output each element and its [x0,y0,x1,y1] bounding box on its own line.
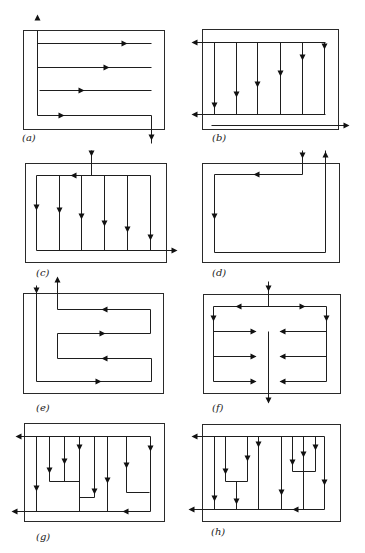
arrow-right-icon [300,304,306,310]
arrow-left-icon [192,434,198,440]
panel-frame [203,164,340,263]
arrow-down-icon [300,55,306,61]
arrow-down-icon [256,442,262,448]
arrow-down-icon [212,496,218,502]
arrow-down-icon [266,398,272,404]
panel-h: (h) [189,425,341,538]
arrow-left-icon [280,379,286,385]
panel-e: (e) [24,277,164,414]
flow-line [281,307,327,382]
arrow-down-icon [92,489,98,495]
arrow-right-icon [122,41,128,47]
arrow-left-icon [102,307,108,313]
arrow-down-icon [102,221,108,227]
arrow-down-icon [125,227,131,233]
arrow-down-icon [313,445,319,451]
arrow-left-icon [192,112,198,118]
panel-label-e: (e) [36,402,50,413]
arrow-right-icon [344,123,350,129]
arrow-right-icon [79,88,85,94]
panel-d: (d) [203,151,340,279]
arrow-right-icon [251,354,257,360]
arrow-down-icon [149,135,155,141]
arrow-left-icon [102,356,108,362]
arrow-down-icon [62,459,68,465]
arrow-down-icon [148,446,154,452]
panel-frame [204,295,341,394]
arrow-right-icon [251,329,257,335]
arrow-down-icon [212,103,218,109]
arrow-down-icon [324,316,330,322]
panel-label-a: (a) [22,132,36,143]
arrow-left-icon [16,434,22,440]
arrow-up-icon [323,152,329,158]
panel-g: (g) [12,424,165,543]
flow-line [15,437,151,512]
panel-label-d: (d) [212,267,226,278]
panel-frame [24,31,165,130]
arrow-down-icon [77,445,83,451]
arrow-down-icon [57,208,63,214]
flow-line [37,281,152,382]
arrow-down-icon [124,463,130,469]
arrow-down-icon [255,82,261,88]
arrow-right-icon [172,248,178,254]
flow-pattern-figure: (a) (b) (c) (d) (e) (f) (g) (h) [0,0,365,553]
diagram-canvas: (a) (b) (c) (d) (e) (f) (g) (h) [0,0,365,553]
panel-label-b: (b) [212,132,226,143]
arrow-down-icon [301,452,307,458]
arrow-down-icon [290,460,296,466]
flow-line [215,151,326,253]
arrow-down-icon [34,486,40,492]
arrow-down-icon [148,235,154,241]
arrow-down-icon [105,478,111,484]
arrow-down-icon [47,468,53,474]
arrow-left-icon [280,354,286,360]
arrow-down-icon [279,490,285,496]
arrow-down-icon [322,480,328,486]
arrow-up-icon [35,15,41,21]
arrow-down-icon [234,92,240,98]
arrow-left-icon [293,507,299,513]
panel-frame [24,294,164,394]
arrow-right-icon [104,65,110,71]
arrow-left-icon [189,507,195,513]
arrow-right-icon [100,331,106,337]
arrow-left-icon [236,304,242,310]
arrow-left-icon [254,172,260,178]
flow-line [214,307,256,382]
arrow-left-icon [12,509,18,515]
arrow-down-icon [266,286,272,292]
panel-a: (a) [22,15,165,144]
arrow-up-icon [55,277,61,283]
arrow-down-icon [234,499,240,505]
panel-frame [26,164,167,263]
arrow-down-icon [212,214,218,220]
arrow-right-icon [96,379,102,385]
arrow-left-icon [71,173,77,179]
arrow-left-icon [123,509,129,515]
arrow-down-icon [322,44,328,50]
arrow-left-icon [280,329,286,335]
flow-line [226,437,248,482]
arrow-down-icon [300,153,306,159]
panel-label-h: (h) [211,526,225,537]
flow-line [127,437,150,493]
arrow-down-icon [34,205,40,211]
panel-label-g: (g) [36,531,50,542]
panel-c: (c) [26,151,178,279]
arrow-down-icon [223,469,229,475]
arrow-down-icon [89,151,95,157]
panel-label-c: (c) [36,267,50,278]
arrow-down-icon [245,456,251,462]
flow-line [38,31,152,144]
arrow-left-icon [192,40,198,46]
arrow-down-icon [278,71,284,77]
panel-f: (f) [204,282,341,414]
arrow-right-icon [251,379,257,385]
panel-b: (b) [192,30,350,144]
panel-label-f: (f) [212,402,224,413]
arrow-down-icon [211,316,217,322]
arrow-down-icon [34,288,40,294]
arrow-right-icon [59,113,65,119]
